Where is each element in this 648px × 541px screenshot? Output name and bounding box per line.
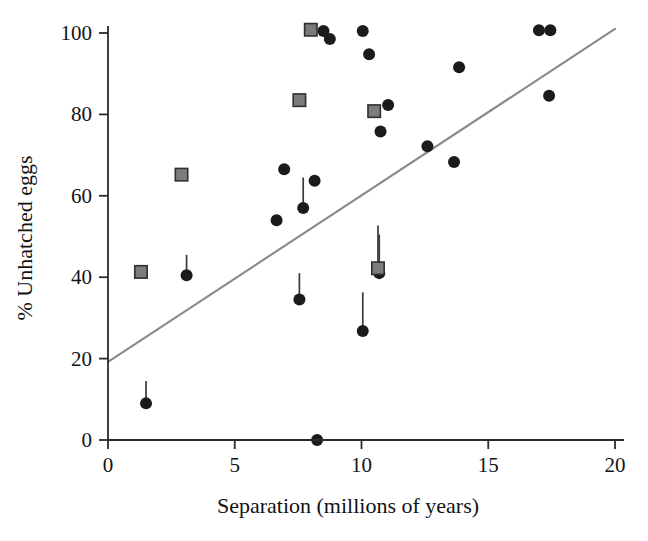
regression-line-segment — [108, 29, 615, 362]
y-tick-label: 0 — [82, 428, 93, 452]
y-tick-label: 40 — [71, 265, 92, 289]
y-axis-ticks: 020406080100 — [61, 21, 109, 452]
data-point-circle — [293, 294, 305, 306]
data-point-circle — [297, 202, 309, 214]
scatter-plot-figure: 05101520 020406080100 Separation (millio… — [0, 0, 648, 541]
data-point-circle — [140, 397, 152, 409]
data-point-circle — [533, 24, 545, 36]
plot-canvas: 05101520 020406080100 Separation (millio… — [0, 0, 648, 541]
x-tick-label: 5 — [230, 453, 241, 477]
x-tick-label: 0 — [103, 453, 114, 477]
data-point-circle — [357, 325, 369, 337]
data-point-circle — [453, 61, 465, 73]
data-point-circle — [324, 33, 336, 45]
data-point-circle — [543, 90, 555, 102]
data-point-circle — [271, 214, 283, 226]
data-point-circle — [309, 175, 321, 187]
data-point-circle — [375, 125, 387, 137]
regression-line — [108, 29, 615, 362]
data-point-square — [372, 262, 384, 274]
data-point-circle — [382, 99, 394, 111]
y-axis-title: % Unhatched eggs — [12, 156, 37, 321]
y-tick-label: 100 — [61, 21, 93, 45]
x-tick-label: 15 — [478, 453, 499, 477]
y-tick-label: 80 — [71, 102, 92, 126]
data-point-circle — [363, 48, 375, 60]
data-point-circle — [544, 24, 556, 36]
data-point-circle — [357, 25, 369, 37]
y-tick-label: 60 — [71, 184, 92, 208]
error-bars — [146, 177, 379, 403]
x-axis-ticks: 05101520 — [103, 440, 626, 477]
data-point-circle — [181, 269, 193, 281]
axes — [108, 26, 624, 440]
data-point-square — [305, 24, 317, 36]
data-point-square — [135, 266, 147, 278]
data-points — [135, 24, 557, 446]
data-point-square — [293, 94, 305, 106]
x-axis-title: Separation (millions of years) — [217, 493, 479, 518]
data-point-circle — [278, 163, 290, 175]
data-point-circle — [421, 140, 433, 152]
data-point-square — [175, 168, 187, 180]
x-tick-label: 10 — [351, 453, 372, 477]
data-point-square — [368, 105, 380, 117]
x-tick-label: 20 — [605, 453, 626, 477]
data-point-circle — [448, 156, 460, 168]
y-tick-label: 20 — [71, 347, 92, 371]
